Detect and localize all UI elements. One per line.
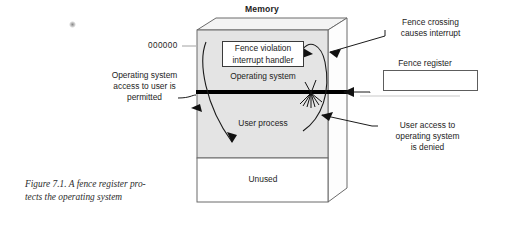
annotation-fence-crossing-line2: causes interrupt xyxy=(378,28,483,39)
annotation-fence-crossing-line1: Fence crossing xyxy=(378,17,483,28)
figure-caption-line1: Figure 7.1. A fence register pro- xyxy=(25,178,185,191)
fence-violation-handler-box: Fence violation interrupt handler xyxy=(222,41,304,67)
segment-label-operating-system: Operating system xyxy=(213,71,313,82)
annotation-fence-crossing: Fence crossing causes interrupt xyxy=(378,17,483,39)
fence-violation-line1: Fence violation xyxy=(223,43,303,55)
figure-caption-line2: tects the operating system xyxy=(25,191,185,204)
annotation-user-denied-line1: User access to xyxy=(375,120,480,131)
annotation-os-permitted-line1: Operating system xyxy=(92,70,197,81)
address-label: 000000 xyxy=(148,41,178,50)
figure-caption: Figure 7.1. A fence register pro- tects … xyxy=(25,178,185,203)
fence-register-box[interactable] xyxy=(383,70,478,91)
figure-canvas: Memory xyxy=(0,0,505,225)
annotation-os-permitted-line2: access to user is xyxy=(92,81,197,92)
segment-label-user-process: User process xyxy=(213,118,313,129)
annotation-os-permitted-line3: permitted xyxy=(92,92,197,103)
annotation-user-denied: User access to operating system is denie… xyxy=(375,120,480,153)
fence-violation-line2: interrupt handler xyxy=(223,55,303,67)
fence-register-label: Fence register xyxy=(385,58,465,69)
annotation-user-denied-line2: operating system xyxy=(375,131,480,142)
annotation-user-denied-line3: is denied xyxy=(375,142,480,153)
segment-label-unused: Unused xyxy=(213,174,313,185)
memory-box-right-face xyxy=(328,18,347,202)
memory-box-top-face xyxy=(197,18,347,30)
annotation-os-permitted: Operating system access to user is permi… xyxy=(92,70,197,103)
